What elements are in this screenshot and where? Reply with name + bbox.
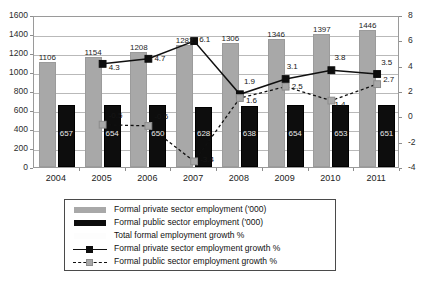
bar-value-label-public: 653: [332, 129, 349, 138]
y-axis-left-tick-label: 200: [0, 144, 28, 153]
y-axis-left-tick-label: 1000: [0, 68, 28, 77]
y-axis-left-tick-label: 800: [0, 87, 28, 96]
point-label-private-growth: 3.5: [381, 58, 392, 67]
legend-item[interactable]: Formal public sector employment growth %: [65, 255, 335, 268]
bar-value-label-public: 650: [149, 129, 166, 138]
y-axis-left-tick-label: 1600: [0, 11, 28, 20]
point-label-private-growth: 4.7: [154, 54, 165, 63]
x-axis-tick-label: 2010: [307, 174, 353, 183]
point-label-public-growth: 1.4: [334, 100, 345, 109]
point-label-public-growth: -0.6: [154, 112, 168, 121]
marker-public-growth: [99, 121, 106, 128]
x-axis-tick-label: 2009: [262, 174, 308, 183]
bar-value-label-public: 638: [241, 129, 258, 138]
blank-swatch-icon: [74, 233, 106, 239]
y-axis-left-tick-mark: [30, 168, 33, 169]
marker-private-growth: [99, 60, 106, 67]
bar-value-label-private: 1306: [214, 34, 247, 43]
legend-key-line-dashed-marker-grey: [70, 256, 110, 268]
y-axis-left-tick-label: 600: [0, 106, 28, 115]
legend-item-label: Formal private sector employment ('000): [114, 204, 266, 215]
y-axis-right-tick-label: 4: [408, 62, 434, 71]
legend-item[interactable]: Formal public sector employment ('000): [65, 216, 335, 229]
legend-key-swatch-blank: [70, 230, 110, 242]
y-axis-left-tick-label: 1200: [0, 49, 28, 58]
grey-square-marker-icon: [86, 259, 93, 266]
legend-item-label: Formal public sector employment growth %: [114, 256, 277, 267]
x-axis-tick-label: 2004: [33, 174, 79, 183]
legend-key-line-solid-marker-black: [70, 243, 110, 255]
y-axis-left-tick-label: 400: [0, 125, 28, 134]
chart-container: 02004006008001000120014001600 -4-202468 …: [0, 0, 434, 291]
marker-private-growth: [145, 55, 152, 62]
legend-item[interactable]: Formal private sector employment growth …: [65, 242, 335, 255]
bar-value-label-public: 651: [378, 129, 395, 138]
y-axis-right-tick-label: 0: [408, 112, 434, 121]
marker-public-growth: [191, 158, 198, 165]
point-label-public-growth: 1.6: [246, 96, 257, 105]
point-label-private-growth: 1.9: [244, 77, 255, 86]
marker-private-growth: [282, 76, 289, 83]
bar-value-label-private: 1282: [168, 36, 201, 45]
x-axis-tick-label: 2006: [124, 174, 170, 183]
y-axis-right-tick-label: 2: [408, 87, 434, 96]
bar-value-label-public: 628: [195, 129, 212, 138]
y-axis-left-tick-label: 1400: [0, 30, 28, 39]
black-swatch-icon: [74, 220, 106, 226]
black-square-marker-icon: [86, 246, 93, 253]
bar-value-label-private: 1106: [31, 53, 64, 62]
point-label-public-growth: -0.5: [109, 111, 123, 120]
x-axis-tick-label: 2007: [170, 174, 216, 183]
point-label-public-growth: -3.4: [200, 155, 214, 164]
marker-private-growth: [328, 67, 335, 74]
point-label-public-growth: 2.5: [292, 82, 303, 91]
bar-value-label-public: 654: [104, 129, 121, 138]
bar-value-label-private: 1397: [305, 25, 338, 34]
marker-public-growth: [236, 95, 243, 102]
bar-value-label-private: 1208: [122, 43, 155, 52]
y-axis-right-tick-label: -4: [408, 163, 434, 172]
x-axis-tick-label: 2005: [79, 174, 125, 183]
plot-area: 4.34.76.11.93.13.83.5-0.5-0.6-3.41.62.51…: [33, 16, 399, 168]
point-label-private-growth: 4.3: [109, 63, 120, 72]
point-label-private-growth: 3.1: [287, 62, 298, 71]
grey-swatch-icon: [74, 207, 106, 213]
chart-legend: Formal private sector employment ('000)F…: [64, 199, 336, 271]
x-axis-tick-label: 2011: [353, 174, 399, 183]
bar-value-label-private: 1446: [351, 21, 384, 30]
legend-item[interactable]: Formal private sector employment ('000): [65, 203, 335, 216]
bar-value-label-public: 654: [287, 129, 304, 138]
marker-private-growth: [374, 71, 381, 78]
marker-public-growth: [282, 83, 289, 90]
legend-item[interactable]: Total formal employment growth %: [65, 229, 335, 242]
point-label-public-growth: 2.7: [383, 75, 394, 84]
y-axis-right-tick-label: -2: [408, 138, 434, 147]
bar-value-label-private: 1154: [77, 48, 110, 57]
legend-key-swatch-black: [70, 217, 110, 229]
point-label-private-growth: 3.8: [334, 53, 345, 62]
legend-item-label: Formal public sector employment ('000): [114, 217, 263, 228]
bar-value-label-public: 657: [58, 129, 75, 138]
legend-item-label: Total formal employment growth %: [114, 230, 244, 241]
y-axis-left-tick-label: 0: [0, 163, 28, 172]
y-axis-right-tick-label: 6: [408, 36, 434, 45]
legend-item-label: Formal private sector employment growth …: [114, 243, 280, 254]
x-axis-tick-label: 2008: [216, 174, 262, 183]
marker-public-growth: [374, 81, 381, 88]
bar-value-label-private: 1346: [260, 30, 293, 39]
legend-key-swatch-grey: [70, 204, 110, 216]
y-axis-right-tick-label: 8: [408, 11, 434, 20]
